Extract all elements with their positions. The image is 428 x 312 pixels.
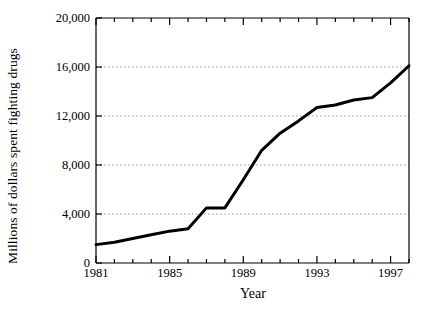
x-axis-tick-labels: 19811985198919931997	[0, 266, 428, 286]
x-tick-label: 1993	[304, 266, 329, 281]
x-tick-label: 1989	[231, 266, 256, 281]
gridlines	[96, 67, 409, 214]
x-axis-title: Year	[96, 286, 410, 302]
axis-frame	[96, 18, 409, 263]
x-tick-label: 1981	[84, 266, 109, 281]
chart-figure: Millions of dollars spent fighting drugs…	[0, 0, 428, 312]
data-series-line	[96, 66, 409, 245]
axis-ticks	[96, 18, 409, 263]
x-tick-label: 1985	[157, 266, 182, 281]
x-tick-label: 1997	[378, 266, 403, 281]
